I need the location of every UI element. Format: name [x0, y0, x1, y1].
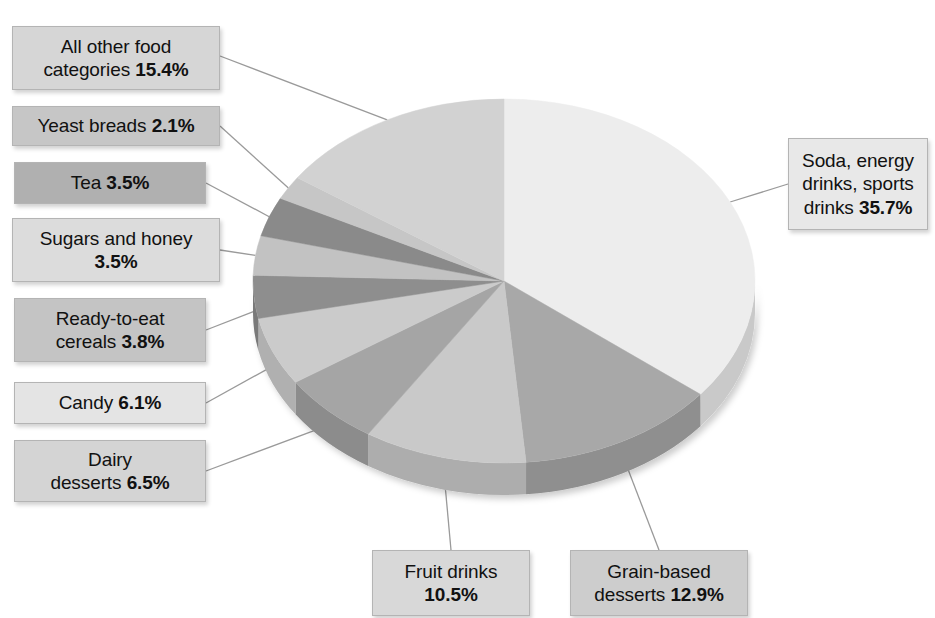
callout-line: Dairy	[50, 448, 169, 471]
callout-text: Fruit drinks10.5%	[405, 560, 498, 606]
leader-line-candy	[206, 366, 273, 403]
callout-line: categories 15.4%	[43, 58, 188, 81]
callout-candy[interactable]: Candy 6.1%	[14, 382, 206, 424]
callout-text: Dairydesserts 6.5%	[50, 448, 169, 494]
callout-percent: 3.8%	[121, 331, 164, 352]
callout-tea[interactable]: Tea 3.5%	[14, 162, 206, 204]
callout-dairy-desserts[interactable]: Dairydesserts 6.5%	[14, 440, 206, 502]
callout-line: 3.5%	[40, 250, 193, 273]
callout-line: Ready-to-eat	[56, 307, 165, 330]
callout-text: Grain-baseddesserts 12.9%	[594, 560, 724, 606]
callout-text: Candy 6.1%	[59, 391, 162, 414]
callout-line: Candy 6.1%	[59, 391, 162, 414]
callout-line: cereals 3.8%	[56, 330, 165, 353]
callout-sugars-and-honey[interactable]: Sugars and honey3.5%	[12, 218, 220, 282]
leader-line-ready-to-eat-cereals	[206, 311, 254, 330]
leader-line-sugars-and-honey	[220, 250, 256, 255]
callout-line: 10.5%	[405, 583, 498, 606]
callout-text: Ready-to-eatcereals 3.8%	[56, 307, 165, 353]
callout-percent: 10.5%	[424, 584, 477, 605]
callout-percent: 35.7%	[859, 197, 912, 218]
callout-line: desserts 6.5%	[50, 471, 169, 494]
leader-line-soda-energy-drinks-sports-drinks	[730, 184, 788, 202]
callout-line: Grain-based	[594, 560, 724, 583]
callout-line: Tea 3.5%	[71, 171, 149, 194]
callout-line: Sugars and honey	[40, 227, 193, 250]
callout-percent: 2.1%	[152, 115, 195, 136]
callout-all-other-food-categories[interactable]: All other foodcategories 15.4%	[12, 26, 220, 90]
callout-percent: 15.4%	[135, 59, 188, 80]
leader-line-yeast-breads	[220, 126, 288, 188]
pie-top-faces	[253, 99, 755, 463]
callout-line: Yeast breads 2.1%	[37, 114, 194, 137]
callout-percent: 3.5%	[95, 251, 138, 272]
callout-yeast-breads[interactable]: Yeast breads 2.1%	[12, 106, 220, 146]
callout-text: Soda, energydrinks, sportsdrinks 35.7%	[802, 149, 914, 219]
callout-text: All other foodcategories 15.4%	[43, 35, 188, 81]
callout-percent: 3.5%	[106, 172, 149, 193]
callout-line: All other food	[43, 35, 188, 58]
callout-percent: 6.1%	[118, 392, 161, 413]
callout-fruit-drinks[interactable]: Fruit drinks10.5%	[372, 550, 530, 616]
callout-line: drinks, sports	[802, 172, 914, 195]
leader-line-all-other-food-categories	[220, 56, 387, 120]
callout-soda-energy-drinks-sports-drinks[interactable]: Soda, energydrinks, sportsdrinks 35.7%	[788, 138, 928, 230]
callout-grain-based-desserts[interactable]: Grain-baseddesserts 12.9%	[570, 550, 748, 616]
callout-text: Sugars and honey3.5%	[40, 227, 193, 273]
leader-line-dairy-desserts	[206, 425, 328, 471]
callout-line: Fruit drinks	[405, 560, 498, 583]
callout-text: Tea 3.5%	[71, 171, 149, 194]
callout-ready-to-eat-cereals[interactable]: Ready-to-eatcereals 3.8%	[14, 298, 206, 362]
leader-line-tea	[206, 183, 269, 217]
callout-percent: 6.5%	[127, 472, 170, 493]
callout-percent: 12.9%	[670, 584, 723, 605]
callout-line: desserts 12.9%	[594, 583, 724, 606]
callout-line: drinks 35.7%	[802, 196, 914, 219]
pie-chart-figure: All other foodcategories 15.4% Yeast bre…	[0, 0, 935, 618]
callout-text: Yeast breads 2.1%	[37, 114, 194, 137]
callout-line: Soda, energy	[802, 149, 914, 172]
